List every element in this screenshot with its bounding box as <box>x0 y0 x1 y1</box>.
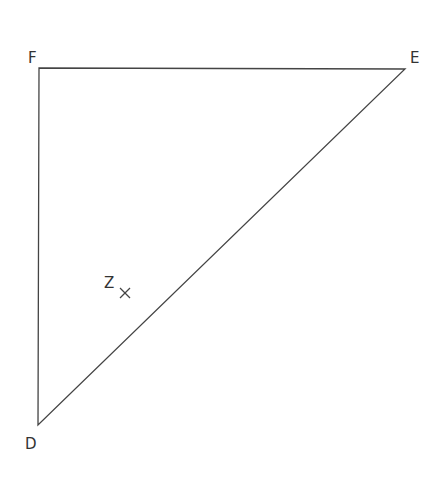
triangle-diagram: F E D Z <box>0 0 443 478</box>
cross-marker-icon <box>120 288 130 298</box>
vertex-label-d: D <box>25 435 37 453</box>
vertex-label-e: E <box>410 49 419 67</box>
point-label-z: Z <box>104 274 114 292</box>
triangle-def <box>38 68 405 425</box>
vertex-label-f: F <box>28 49 37 67</box>
